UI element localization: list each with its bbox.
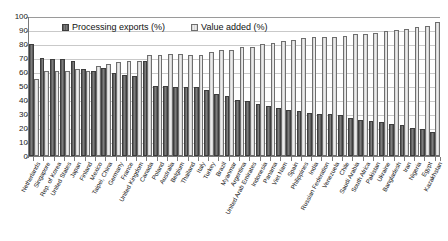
- bar-group: [368, 17, 378, 156]
- bar-value-added: [343, 36, 348, 156]
- y-axis-tick-label: 100: [2, 13, 28, 21]
- y-axis-tick-label: 80: [2, 41, 28, 49]
- y-axis-tick-label: 20: [2, 125, 28, 133]
- y-axis-tick-label: 10: [2, 139, 28, 147]
- bar-value-added: [373, 33, 378, 156]
- bar-group: [348, 17, 358, 156]
- bar-group: [80, 17, 90, 156]
- bar-value-added: [240, 47, 245, 156]
- bar-group: [111, 17, 121, 156]
- bar-group: [420, 17, 430, 156]
- bar-group: [39, 17, 49, 156]
- legend-label-processing-exports: Processing exports (%): [72, 23, 165, 32]
- bar-group: [29, 17, 39, 156]
- bar-value-added: [188, 55, 193, 156]
- bar-groups: [29, 17, 440, 156]
- bar-value-added: [301, 38, 306, 156]
- bar-value-added: [332, 37, 337, 156]
- bar-group: [122, 17, 132, 156]
- bar-value-added: [127, 61, 132, 156]
- bar-value-added: [106, 64, 111, 156]
- bar-group: [183, 17, 193, 156]
- bar-group: [307, 17, 317, 156]
- y-axis-tick-label: 0: [2, 153, 28, 161]
- bar-group: [245, 17, 255, 156]
- bar-group: [399, 17, 409, 156]
- bar-value-added: [96, 66, 101, 156]
- bar-group: [317, 17, 327, 156]
- plot-area: [28, 17, 440, 157]
- y-axis-tick-label: 70: [2, 55, 28, 63]
- bar-group: [91, 17, 101, 156]
- bar-value-added: [147, 55, 152, 156]
- y-axis-tick-label: 40: [2, 97, 28, 105]
- y-axis-tick-label: 50: [2, 83, 28, 91]
- bar-group: [204, 17, 214, 156]
- bar-group: [60, 17, 70, 156]
- bar-value-added: [168, 54, 173, 156]
- bar-group: [255, 17, 265, 156]
- bar-value-added: [435, 22, 440, 156]
- bar-value-added: [229, 50, 234, 156]
- bar-value-added: [158, 55, 163, 156]
- bar-value-added: [178, 54, 183, 156]
- bar-value-added: [271, 43, 276, 156]
- legend-item-processing-exports: Processing exports (%): [62, 23, 165, 32]
- bar-value-added: [281, 41, 286, 156]
- bar-group: [132, 17, 142, 156]
- bar-value-added: [312, 37, 317, 156]
- y-axis-tick-label: 90: [2, 27, 28, 35]
- bar-value-added: [353, 34, 358, 156]
- bar-group: [142, 17, 152, 156]
- bar-value-added: [209, 52, 214, 156]
- legend-label-value-added: Value added (%): [201, 23, 267, 32]
- bar-group: [214, 17, 224, 156]
- bar-value-added: [219, 50, 224, 156]
- bar-group: [163, 17, 173, 156]
- bar-value-added: [363, 34, 368, 156]
- bar-value-added: [260, 44, 265, 156]
- bar-group: [379, 17, 389, 156]
- y-axis: 0102030405060708090100: [0, 17, 28, 157]
- bar-group: [50, 17, 60, 156]
- legend-swatch-icon-value-added: [191, 24, 198, 31]
- bar-value-added: [394, 30, 399, 156]
- bar-value-added: [415, 27, 420, 156]
- bar-group: [409, 17, 419, 156]
- bar-group: [152, 17, 162, 156]
- chart-legend: Processing exports (%) Value added (%): [62, 23, 267, 32]
- bar-group: [173, 17, 183, 156]
- bar-group: [235, 17, 245, 156]
- legend-swatch-icon-processing-exports: [62, 24, 69, 31]
- bar-group: [286, 17, 296, 156]
- bar-group: [276, 17, 286, 156]
- bar-value-added: [250, 47, 255, 156]
- bar-group: [265, 17, 275, 156]
- bar-group: [358, 17, 368, 156]
- bar-value-added: [65, 71, 70, 156]
- bar-group: [327, 17, 337, 156]
- bar-group: [224, 17, 234, 156]
- bar-value-added: [55, 71, 60, 156]
- bar-value-added: [384, 31, 389, 156]
- bar-value-added: [199, 55, 204, 156]
- bar-group: [101, 17, 111, 156]
- bar-value-added: [137, 61, 142, 156]
- bar-group: [296, 17, 306, 156]
- bar-value-added: [322, 37, 327, 156]
- bar-value-added: [44, 71, 49, 156]
- bar-value-added: [34, 79, 39, 156]
- x-axis-labels: NetherlandsSingaporeRep. of KoreaUnited …: [28, 161, 440, 241]
- bar-value-added: [86, 71, 91, 156]
- bar-group: [430, 17, 440, 156]
- y-axis-tick-label: 60: [2, 69, 28, 77]
- bar-group: [389, 17, 399, 156]
- legend-item-value-added: Value added (%): [191, 23, 267, 32]
- bar-group: [194, 17, 204, 156]
- bar-value-added: [116, 62, 121, 156]
- bar-value-added: [291, 40, 296, 156]
- bar-value-added: [425, 26, 430, 156]
- bar-value-added: [404, 29, 409, 156]
- y-axis-tick-label: 30: [2, 111, 28, 119]
- bar-chart: 0102030405060708090100 NetherlandsSingap…: [0, 0, 448, 241]
